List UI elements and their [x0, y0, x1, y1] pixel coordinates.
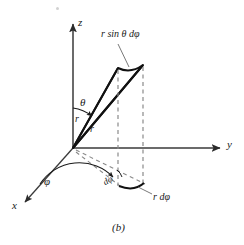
radius-label-lower: r [90, 124, 94, 134]
z-axis-label: z [78, 17, 82, 28]
r-dphi-arc [119, 183, 144, 188]
x-axis-label: x [12, 200, 17, 211]
axis-group [25, 24, 220, 202]
top-label-leader-group [118, 44, 129, 67]
radius-label-upper: r [75, 114, 79, 124]
r-sin-theta-dphi-label: r sin θ dφ [101, 29, 140, 39]
bottom-arc-group [119, 183, 152, 194]
figure-container: z y x θ φ dφ r r r sin θ dφ r dφ (b) [0, 0, 244, 245]
r-dphi-label: r dφ [153, 192, 170, 202]
theta-angle-label: θ [80, 97, 85, 108]
radius-line-upper [73, 68, 118, 148]
dashed-projection-group [118, 67, 143, 186]
r-dphi-leader-line [138, 187, 152, 194]
r-sin-theta-dphi-leader-line [118, 44, 129, 67]
phi-angle-label: φ [44, 176, 50, 187]
y-axis-label: y [227, 139, 232, 150]
figure-caption: (b) [112, 222, 125, 233]
